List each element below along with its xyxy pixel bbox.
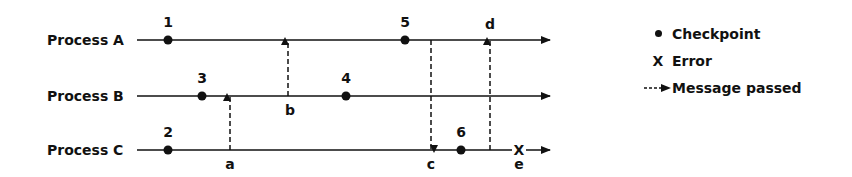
message-d-label: d (485, 16, 495, 32)
process-a-label: Process A (47, 32, 124, 48)
checkpoint-1-icon (164, 36, 173, 45)
checkpoint-3-label: 3 (197, 70, 207, 86)
error-x-legend-icon: X (644, 53, 672, 69)
error-e-label: e (514, 156, 524, 172)
message-c-label: c (427, 156, 435, 172)
legend-error: X Error (644, 47, 802, 74)
checkpoint-1-label: 1 (163, 14, 173, 30)
checkpoint-6-label: 6 (456, 124, 466, 140)
legend-checkpoint: Checkpoint (644, 20, 802, 47)
checkpoint-6-icon (457, 146, 466, 155)
checkpoint-dot-icon (644, 30, 672, 37)
checkpoint-5-icon (401, 36, 410, 45)
message-b-label: b (285, 102, 295, 118)
checkpoint-5-label: 5 (400, 14, 410, 30)
dashed-arrow-icon (644, 83, 672, 93)
legend-checkpoint-label: Checkpoint (672, 26, 760, 42)
legend: Checkpoint X Error Message passed (644, 20, 802, 101)
checkpoint-2-icon (164, 146, 173, 155)
checkpoint-4-icon (342, 92, 351, 101)
legend-error-label: Error (672, 53, 712, 69)
checkpoint-3-icon (198, 92, 207, 101)
checkpoint-4-label: 4 (341, 70, 351, 86)
checkpoint-2-label: 2 (163, 124, 173, 140)
legend-message: Message passed (644, 74, 802, 101)
legend-message-label: Message passed (672, 80, 802, 96)
message-a-label: a (225, 156, 234, 172)
process-b-label: Process B (47, 88, 124, 104)
process-c-label: Process C (47, 142, 123, 158)
